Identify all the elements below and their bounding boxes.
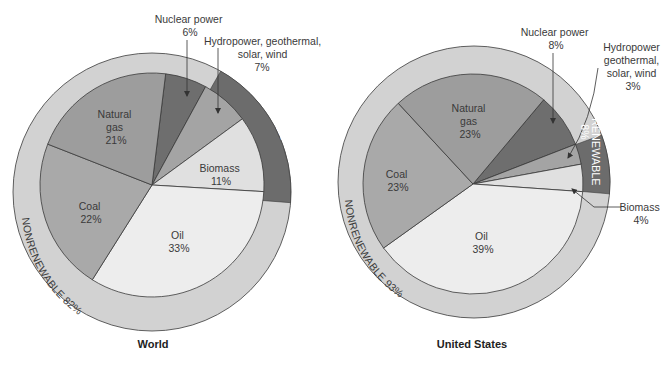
world-coal-label: Coal 22% bbox=[79, 200, 104, 225]
world-pie-chart: Natural gas 21% Biomass 11% Coal 22% Oil… bbox=[13, 13, 324, 350]
us-chart-title: United States bbox=[437, 338, 507, 350]
us-pie-chart: Natural gas 23% Coal 23% Oil 39% Nuclear… bbox=[338, 26, 663, 350]
world-hydro-label: Hydropower, geothermal, solar, wind 7% bbox=[204, 35, 324, 73]
us-hydro-label: Hydropower geothermal, solar, wind 3% bbox=[603, 41, 663, 92]
us-coal-label: Coal 23% bbox=[386, 168, 411, 193]
energy-pie-charts: Natural gas 21% Biomass 11% Coal 22% Oil… bbox=[0, 0, 669, 368]
world-chart-title: World bbox=[138, 338, 169, 350]
us-renewable-ring-pct: 8% bbox=[579, 124, 591, 140]
us-nuclear-label: Nuclear power 8% bbox=[521, 26, 592, 51]
world-oil-label: Oil 33% bbox=[168, 229, 189, 254]
us-oil-label: Oil 39% bbox=[472, 230, 493, 255]
us-biomass-label: Biomass 4% bbox=[619, 201, 662, 226]
